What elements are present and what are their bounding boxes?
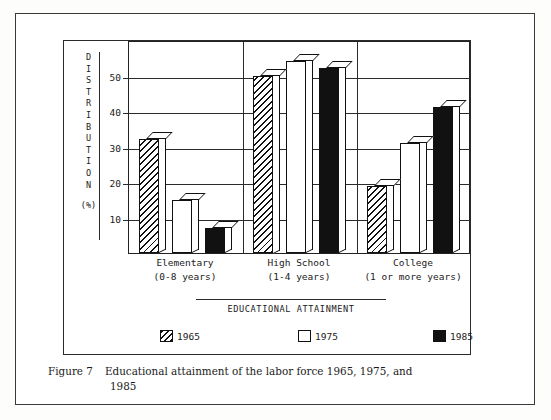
bar-front-face: [205, 228, 225, 253]
bar-front-face: [253, 76, 273, 254]
legend-swatch-1985: [433, 330, 446, 342]
legend-label-1965: 1965: [177, 331, 200, 342]
bar-top-face: [407, 136, 434, 143]
bar-1965-1: [253, 76, 273, 254]
bar-front-face: [433, 107, 453, 253]
category-label-line2: (1 or more years): [356, 270, 470, 284]
y-axis-label-char: T: [86, 145, 91, 157]
y-axis-label-char: B: [86, 122, 91, 134]
bar-side-face: [339, 65, 346, 253]
figure-caption-line1: Educational attainment of the labor forc…: [105, 365, 413, 377]
y-axis-label-char: O: [86, 168, 91, 180]
y-tick-mark: [123, 149, 129, 150]
bar-front-face: [286, 61, 306, 253]
bar-1985-0: [205, 228, 225, 253]
y-tick-label: 10: [110, 215, 121, 225]
y-tick-label: 20: [110, 179, 121, 189]
y-tick-label: 50: [110, 73, 121, 83]
category-label-line2: (1-4 years): [242, 270, 356, 284]
bar-front-face: [172, 200, 192, 253]
y-tick-mark: [123, 78, 129, 79]
y-tick-label: 40: [110, 108, 121, 118]
bar-1965-2: [367, 186, 387, 253]
legend-label-1985: 1985: [450, 331, 473, 342]
bar-top-face: [212, 221, 239, 228]
y-axis-label-char: T: [86, 87, 91, 99]
y-axis-label-char: R: [86, 98, 91, 110]
bar-1965-0: [139, 139, 159, 253]
legend-item-1965: 1965: [160, 330, 200, 342]
bar-top-face: [293, 54, 320, 61]
y-tick-mark: [123, 220, 129, 221]
bar-side-face: [192, 196, 199, 253]
bar-top-face: [179, 193, 206, 200]
y-axis-label-char: I: [86, 156, 91, 168]
category-label-line1: College: [356, 256, 470, 270]
bar-front-face: [319, 68, 339, 253]
category-label-line1: Elementary: [128, 256, 242, 270]
bar-side-face: [453, 104, 460, 253]
category-label: College(1 or more years): [356, 256, 470, 283]
bar-side-face: [273, 72, 280, 253]
bar-side-face: [387, 182, 394, 253]
scanned-page: D I S T R I B U T I O N (%) 1020304050 E…: [0, 0, 551, 420]
bar-1975-0: [172, 200, 192, 253]
category-label-line1: High School: [242, 256, 356, 270]
legend-label-1975: 1975: [315, 331, 338, 342]
bar-side-face: [159, 136, 166, 253]
bar-top-face: [326, 61, 353, 68]
legend-item-1975: 1975: [298, 330, 338, 342]
y-axis-unit: (%): [81, 200, 96, 210]
category-separator: [357, 42, 358, 253]
y-tick-mark: [123, 113, 129, 114]
bar-1975-2: [400, 143, 420, 253]
y-axis-label-char: I: [86, 110, 91, 122]
bar-1985-2: [433, 107, 453, 253]
figure-number: Figure 7: [48, 365, 93, 377]
legend-swatch-1965: [160, 330, 173, 342]
bar-top-face: [440, 100, 467, 107]
bar-top-face: [146, 132, 173, 139]
y-axis-label-char: N: [86, 180, 91, 192]
y-tick-mark: [123, 184, 129, 185]
bar-side-face: [225, 225, 232, 253]
x-axis-title: EDUCATIONAL ATTAINMENT: [196, 299, 386, 314]
category-label: High School(1-4 years): [242, 256, 356, 283]
legend-swatch-1975: [298, 330, 311, 342]
legend-item-1985: 1985: [433, 330, 473, 342]
y-tick-label: 30: [110, 144, 121, 154]
y-axis-label-char: I: [86, 64, 91, 76]
y-axis-label-char: U: [86, 133, 91, 145]
bar-side-face: [306, 58, 313, 253]
x-axis-category-labels: Elementary(0-8 years)High School(1-4 yea…: [128, 256, 470, 290]
chart-legend: 196519751985: [150, 330, 450, 348]
category-label: Elementary(0-8 years): [128, 256, 242, 283]
category-label-line2: (0-8 years): [128, 270, 242, 284]
figure-caption-line2: 1985: [48, 379, 508, 394]
bar-front-face: [139, 139, 159, 253]
bar-front-face: [367, 186, 387, 253]
category-separator: [243, 42, 244, 253]
plot-area: 1020304050: [128, 41, 470, 254]
bar-1985-1: [319, 68, 339, 253]
bar-front-face: [400, 143, 420, 253]
bar-side-face: [420, 140, 427, 253]
y-axis-label: D I S T R I B U T I O N (%): [78, 52, 100, 240]
y-axis-label-char: D: [86, 52, 91, 64]
bar-1975-1: [286, 61, 306, 253]
figure-caption: Figure 7Educational attainment of the la…: [48, 364, 508, 394]
y-axis-label-char: S: [86, 75, 91, 87]
bar-top-face: [260, 69, 287, 76]
